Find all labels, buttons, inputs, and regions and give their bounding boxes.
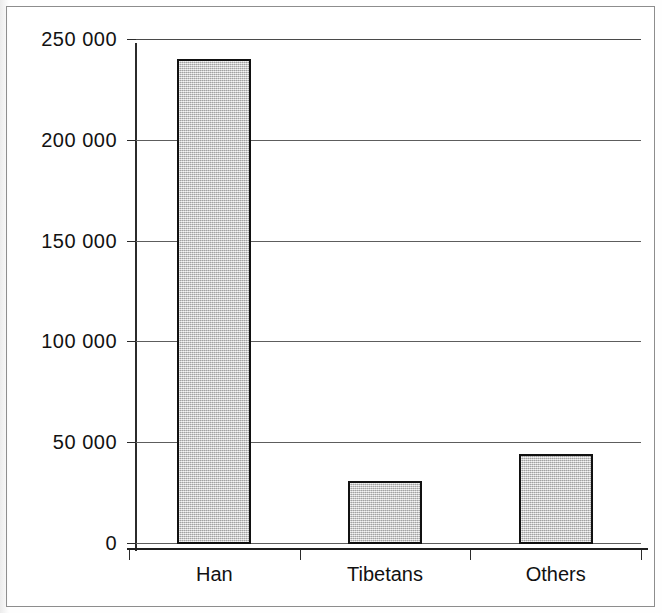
x-axis-tick <box>470 550 471 560</box>
y-axis-tick-label: 200 000 <box>7 128 117 151</box>
y-axis-tick-label: 250 000 <box>7 28 117 51</box>
y-axis-tick <box>127 39 136 40</box>
x-axis-tick <box>300 550 301 560</box>
x-axis-tick-label: Others <box>526 563 586 586</box>
y-axis-tick-label: 50 000 <box>7 431 117 454</box>
bar-others <box>519 454 593 544</box>
y-axis-tick <box>127 241 136 242</box>
y-axis-tick <box>127 442 136 443</box>
x-axis-tick-label: Tibetans <box>347 563 423 586</box>
chart-page: 050 000100 000150 000200 000250 000 HanT… <box>0 0 662 613</box>
y-axis-tick <box>127 543 136 544</box>
y-axis-tick-label: 0 <box>7 532 117 555</box>
y-axis-tick <box>127 341 136 342</box>
bar-tibetans <box>348 481 422 544</box>
gridline <box>129 39 641 40</box>
x-axis-tick <box>129 550 130 560</box>
y-axis-tick-label: 100 000 <box>7 330 117 353</box>
y-axis-tick-label: 150 000 <box>7 229 117 252</box>
bar-han <box>177 59 251 544</box>
figure-frame: 050 000100 000150 000200 000250 000 HanT… <box>6 6 655 607</box>
y-axis-tick <box>127 140 136 141</box>
x-axis-tick <box>641 550 642 560</box>
x-axis-tick-label: Han <box>196 563 233 586</box>
